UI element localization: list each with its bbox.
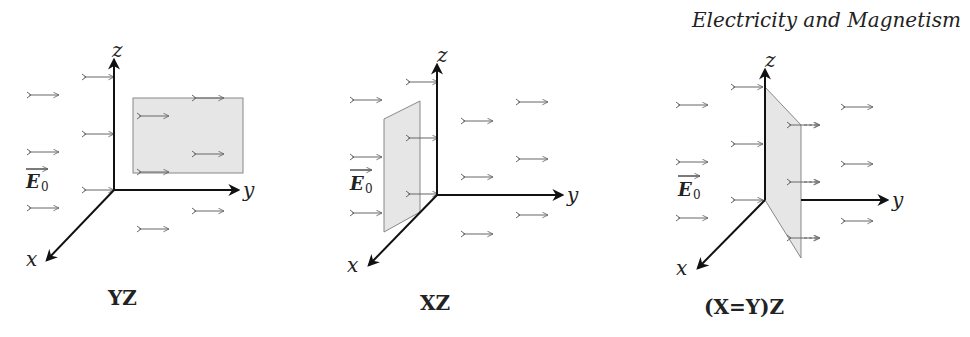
panel-xz: z y x E 0	[347, 43, 579, 277]
field-arrows	[27, 74, 224, 232]
svg-text:E: E	[25, 171, 40, 192]
field-arrows	[350, 79, 548, 237]
field-label: E 0	[25, 169, 49, 194]
field-label: E 0	[349, 170, 373, 196]
z-axis-label: z	[436, 43, 448, 67]
caption-diagonal: (X=Y)Z	[704, 295, 784, 319]
plane-yz	[133, 98, 243, 173]
caption-yz: YZ	[108, 286, 137, 310]
x-axis-label: x	[26, 247, 37, 271]
svg-text:0: 0	[365, 182, 373, 196]
x-axis-label: x	[347, 253, 358, 277]
field-label: E 0	[677, 176, 701, 202]
z-axis-label: z	[111, 38, 123, 62]
plane-diagonal	[765, 87, 801, 258]
y-axis-label: y	[891, 188, 904, 212]
svg-text:E: E	[349, 173, 364, 194]
x-axis-label: x	[676, 256, 687, 280]
svg-text:E: E	[677, 179, 692, 200]
y-axis-label: y	[566, 183, 579, 207]
y-axis-label: y	[242, 178, 255, 202]
panel-yz: z y x E 0	[25, 38, 255, 271]
svg-text:0: 0	[41, 180, 49, 194]
diagram-canvas: z y x E 0 z y	[0, 0, 970, 337]
z-axis-label: z	[764, 48, 776, 72]
caption-xz: XZ	[420, 291, 450, 315]
svg-text:0: 0	[693, 188, 701, 202]
panel-diagonal: z y x E 0	[676, 48, 904, 280]
plane-xz	[384, 101, 420, 232]
